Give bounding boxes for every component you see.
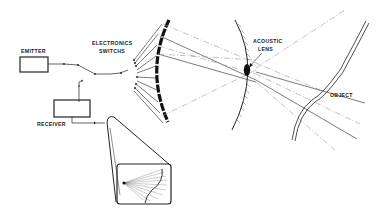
object-label: OBJECT [330,92,353,98]
acoustic-lens-boundary [232,20,250,130]
emitter: EMITTER [20,48,48,72]
emitter-label: EMITTER [21,48,46,54]
receiver: RECEIVER [37,80,105,127]
acoustic-beams [158,10,365,150]
emitter-switch-wire [48,63,128,75]
transducer-array [157,20,169,122]
receiver-label: RECEIVER [37,121,66,127]
switch-fanout [133,24,163,123]
receiver-box [54,100,90,117]
display-object-trace [145,169,162,203]
display-rays [124,169,167,201]
receiver-display-wire [72,117,105,123]
acoustic-lens-label-1: ACOUSTIC [253,38,283,44]
receiver-switch-wire [79,80,83,102]
emitter-box [20,57,48,72]
display [107,117,171,204]
electronics-switches-label-1: ELECTRONICS [92,40,133,46]
acoustic-lens [244,64,250,76]
electronics-switches-label-2: SWITCHS [99,48,125,54]
acoustic-lens-label-2: LENS [258,46,273,52]
acoustic-imaging-diagram: EMITTER ELECTRONICS SWITCHS [0,0,385,216]
